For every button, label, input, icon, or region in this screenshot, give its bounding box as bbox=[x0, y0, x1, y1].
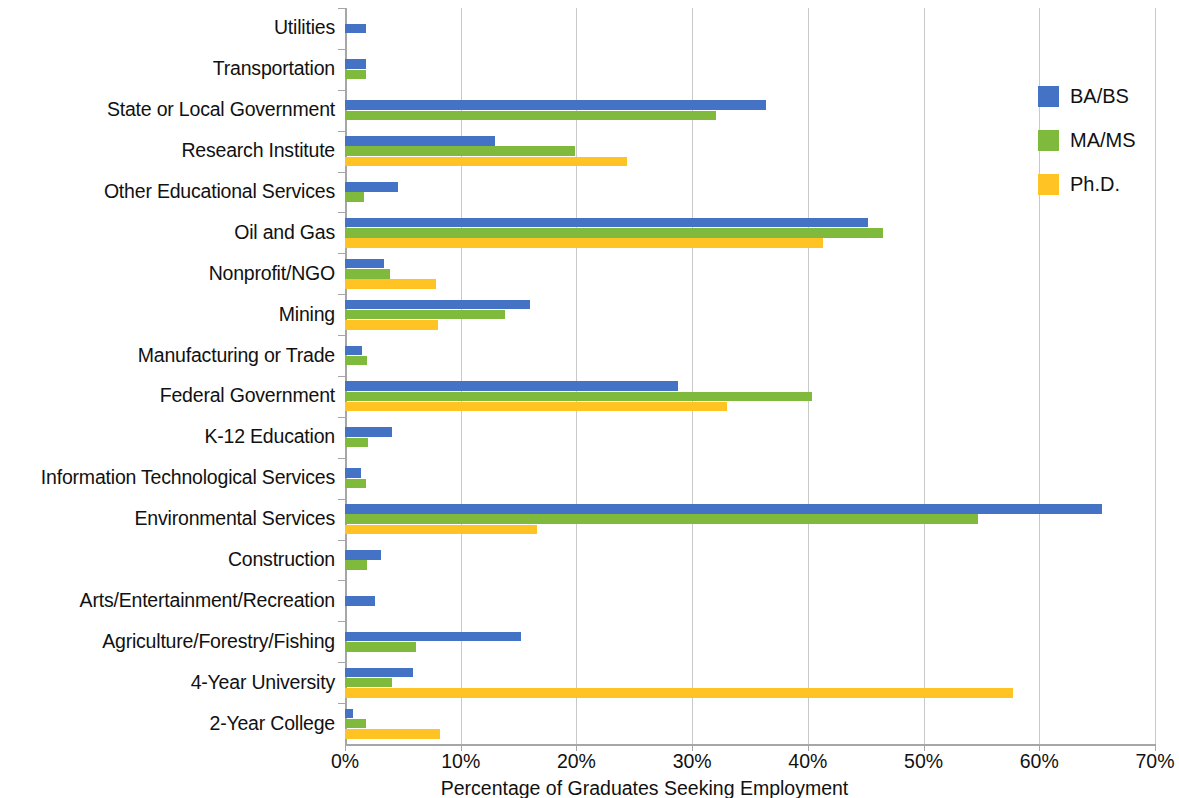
gridline bbox=[924, 8, 925, 744]
bar-ma bbox=[345, 392, 812, 402]
y-tick bbox=[338, 703, 345, 704]
bar-phd bbox=[345, 402, 727, 412]
bar-ma bbox=[345, 438, 368, 448]
y-tick bbox=[338, 253, 345, 254]
y-tick bbox=[338, 335, 345, 336]
bar-ba bbox=[345, 550, 381, 560]
y-tick bbox=[338, 580, 345, 581]
y-tick bbox=[338, 131, 345, 132]
category-label: Transportation bbox=[0, 59, 335, 79]
bar-ma bbox=[345, 269, 390, 279]
bar-ba bbox=[345, 709, 353, 719]
category-label: Research Institute bbox=[0, 141, 335, 161]
bar-ma bbox=[345, 642, 416, 652]
legend-swatch-ma-ms-icon bbox=[1038, 130, 1059, 151]
bar-phd bbox=[345, 238, 823, 248]
category-label: Nonprofit/NGO bbox=[0, 264, 335, 284]
bar-ba bbox=[345, 504, 1102, 514]
y-tick bbox=[338, 540, 345, 541]
y-tick bbox=[338, 212, 345, 213]
bar-ma bbox=[345, 719, 366, 729]
x-tick-label: 30% bbox=[673, 752, 712, 772]
bar-ma bbox=[345, 514, 978, 524]
legend-item-ma-ms: MA/MS bbox=[1038, 118, 1168, 162]
x-tick-label: 70% bbox=[1135, 752, 1174, 772]
y-tick bbox=[338, 499, 345, 500]
y-tick bbox=[338, 90, 345, 91]
bar-ba bbox=[345, 59, 366, 69]
x-tick-label: 10% bbox=[441, 752, 480, 772]
bar-ma bbox=[345, 192, 364, 202]
bar-phd bbox=[345, 688, 1013, 698]
bar-ma bbox=[345, 111, 716, 121]
bar-phd bbox=[345, 320, 438, 330]
bar-ma bbox=[345, 479, 366, 489]
bar-ba bbox=[345, 218, 868, 228]
bar-ma bbox=[345, 70, 366, 80]
bar-ba bbox=[345, 381, 678, 391]
bar-ma bbox=[345, 228, 883, 238]
y-tick bbox=[338, 662, 345, 663]
bar-ma bbox=[345, 560, 367, 570]
bar-phd bbox=[345, 729, 440, 739]
bar-ba bbox=[345, 136, 495, 146]
legend-swatch-phd-icon bbox=[1038, 174, 1059, 195]
y-tick bbox=[338, 294, 345, 295]
category-label: Arts/Entertainment/Recreation bbox=[0, 591, 335, 611]
horizontal-bar-chart: UtilitiesTransportationState or Local Go… bbox=[0, 0, 1179, 798]
bar-ba bbox=[345, 427, 392, 437]
category-label: Federal Government bbox=[0, 386, 335, 406]
y-tick bbox=[338, 8, 345, 9]
x-tick-label: 40% bbox=[788, 752, 827, 772]
bar-ba bbox=[345, 182, 398, 192]
category-label: Manufacturing or Trade bbox=[0, 346, 335, 366]
category-label: Construction bbox=[0, 550, 335, 570]
x-axis-title-text: Percentage of Graduates Seeking Employme… bbox=[331, 779, 849, 798]
bar-ba bbox=[345, 100, 766, 110]
bar-phd bbox=[345, 525, 537, 535]
legend-label-ma-ms: MA/MS bbox=[1070, 130, 1136, 150]
legend-label-phd: Ph.D. bbox=[1070, 174, 1120, 194]
bar-ba bbox=[345, 468, 361, 478]
x-tick-label: 0% bbox=[331, 752, 359, 772]
category-label: Mining bbox=[0, 305, 335, 325]
x-tick-label: 20% bbox=[557, 752, 596, 772]
legend-item-phd: Ph.D. bbox=[1038, 162, 1168, 206]
category-label: Other Educational Services bbox=[0, 182, 335, 202]
bar-phd bbox=[345, 157, 627, 167]
bar-ma bbox=[345, 356, 367, 366]
category-label: 2-Year College bbox=[0, 714, 335, 734]
category-label: State or Local Government bbox=[0, 100, 335, 120]
bar-ma bbox=[345, 146, 575, 156]
legend-item-ba-bs: BA/BS bbox=[1038, 74, 1168, 118]
gridline bbox=[808, 8, 809, 744]
bar-ba bbox=[345, 346, 362, 356]
y-tick bbox=[338, 172, 345, 173]
bar-ba bbox=[345, 596, 375, 606]
category-label: Agriculture/Forestry/Fishing bbox=[0, 632, 335, 652]
bar-phd bbox=[345, 279, 436, 289]
x-tick-label: 50% bbox=[904, 752, 943, 772]
y-tick bbox=[338, 49, 345, 50]
bar-ba bbox=[345, 668, 413, 678]
bar-ba bbox=[345, 632, 521, 642]
x-axis-line bbox=[345, 744, 1156, 746]
category-label: Utilities bbox=[0, 18, 335, 38]
y-tick bbox=[338, 458, 345, 459]
bar-ba bbox=[345, 24, 366, 34]
y-tick bbox=[338, 417, 345, 418]
category-label: Oil and Gas bbox=[0, 223, 335, 243]
bar-ma bbox=[345, 678, 392, 688]
category-label: K-12 Education bbox=[0, 427, 335, 447]
category-label: 4-Year University bbox=[0, 673, 335, 693]
x-axis-title: Percentage of Graduates Seeking Employme… bbox=[0, 779, 1179, 798]
bar-ba bbox=[345, 259, 384, 269]
y-tick bbox=[338, 621, 345, 622]
category-label: Information Technological Services bbox=[0, 468, 335, 488]
category-label: Environmental Services bbox=[0, 509, 335, 529]
x-tick-label: 60% bbox=[1020, 752, 1059, 772]
y-tick bbox=[338, 376, 345, 377]
bar-ba bbox=[345, 300, 530, 310]
legend: BA/BS MA/MS Ph.D. bbox=[1038, 74, 1168, 206]
bar-ma bbox=[345, 310, 505, 320]
